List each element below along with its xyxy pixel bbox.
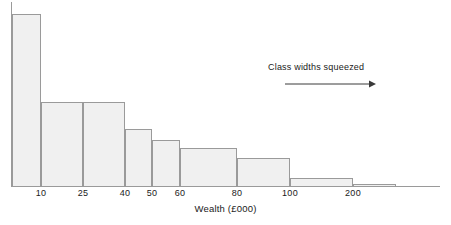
annotation-label: Class widths squeezed <box>268 62 364 72</box>
x-tick-label-100: 100 <box>282 188 298 198</box>
histogram-bar <box>180 148 237 187</box>
x-tick-label-200: 200 <box>345 188 361 198</box>
histogram-bar <box>237 158 290 187</box>
x-tick-label-50: 50 <box>147 188 158 198</box>
histogram-bar <box>152 140 180 187</box>
x-tick-label-10: 10 <box>36 188 47 198</box>
histogram-chart: 102540506080100200 Wealth (£000) Class w… <box>0 0 451 225</box>
histogram-bar <box>83 102 125 187</box>
x-tick-label-60: 60 <box>175 188 186 198</box>
x-tick-label-80: 80 <box>232 188 243 198</box>
histogram-bar <box>12 14 41 187</box>
histogram-bar <box>41 102 83 187</box>
x-tick-label-25: 25 <box>78 188 89 198</box>
annotation-arrow-right-icon <box>285 78 377 90</box>
x-tick-label-40: 40 <box>120 188 131 198</box>
histogram-bar <box>290 178 353 187</box>
x-axis-title: Wealth (£000) <box>0 203 451 214</box>
histogram-bar <box>353 184 396 187</box>
histogram-bar <box>125 129 152 187</box>
